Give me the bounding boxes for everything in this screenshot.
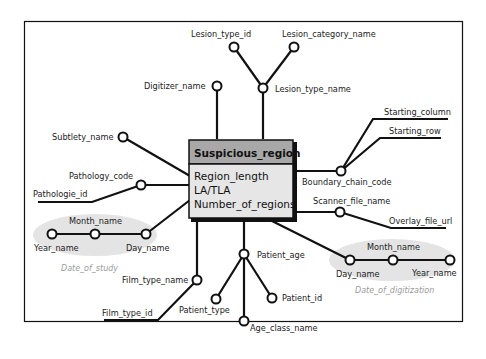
- label-starting-column: Starting_column: [384, 107, 451, 117]
- label-lesion-type-id: Lesion_type_id: [191, 29, 251, 39]
- node-lesion-type-name[interactable]: [259, 84, 268, 93]
- label-study-year: Year_name: [33, 243, 79, 253]
- node-film-type-name[interactable]: [193, 276, 202, 285]
- label-lesion-category-name: Lesion_category_name: [282, 29, 376, 39]
- node-pathology-code[interactable]: [137, 181, 146, 190]
- node-patient-type[interactable]: [212, 295, 221, 304]
- entity-suspicious-region[interactable]: Suspicious_region Region_length LA/TLA N…: [189, 140, 301, 222]
- label-study-month: Month_name: [69, 216, 122, 226]
- label-overlay-file-url: Overlay_file_url: [389, 216, 452, 226]
- entity-title: Suspicious_region: [194, 147, 301, 160]
- line-patient-id: [244, 254, 272, 298]
- node-patient-age[interactable]: [240, 250, 249, 259]
- entity-attr-la-tla: LA/TLA: [194, 184, 231, 196]
- label-pathologie-id: Pathologie_id: [33, 189, 87, 199]
- line-starting-row: [341, 138, 441, 171]
- label-patient-id: Patient_id: [282, 293, 322, 303]
- line-patient-type: [216, 254, 244, 299]
- label-age-class-name: Age_class_name: [250, 323, 318, 333]
- label-film-type-id: Film_type_id: [102, 308, 153, 318]
- label-date-of-digitization: Date_of_digitization: [355, 286, 434, 295]
- node-dig-year[interactable]: [446, 256, 455, 265]
- node-age-class-name[interactable]: [240, 317, 249, 326]
- node-dig-month[interactable]: [389, 256, 398, 265]
- entity-attr-number-of-regions: Number_of_regions: [194, 198, 295, 211]
- node-lesion-category-name[interactable]: [290, 43, 299, 52]
- er-diagram: Suspicious_region Region_length LA/TLA N…: [0, 0, 486, 359]
- node-study-day[interactable]: [142, 230, 151, 239]
- entity-attr-region-length: Region_length: [194, 170, 269, 183]
- node-digitizer-name[interactable]: [213, 82, 222, 91]
- node-boundary-chain-code[interactable]: [337, 167, 346, 176]
- label-date-of-study: Date_of_study: [61, 264, 118, 273]
- node-study-year[interactable]: [48, 230, 57, 239]
- label-patient-age: Patient_age: [257, 250, 305, 260]
- label-film-type-name: Film_type_name: [122, 275, 188, 285]
- label-lesion-type-name: Lesion_type_name: [275, 84, 351, 94]
- node-subtlety-name[interactable]: [119, 133, 128, 142]
- node-study-month[interactable]: [91, 230, 100, 239]
- line-lesion-type-id: [234, 47, 263, 88]
- line-lesion-category: [263, 47, 294, 88]
- label-starting-row: Starting_row: [389, 126, 441, 136]
- label-subtlety-name: Subtlety_name: [52, 132, 113, 142]
- label-boundary-chain-code: Boundary_chain_code: [302, 177, 392, 187]
- line-date-of-study: [146, 200, 190, 234]
- label-patient-type: Patient_type: [179, 305, 230, 315]
- label-dig-day: Day_name: [336, 269, 379, 279]
- node-scanner-file-name[interactable]: [336, 208, 345, 217]
- label-study-day: Day_name: [126, 243, 169, 253]
- label-digitizer-name: Digitizer_name: [144, 81, 206, 91]
- label-dig-year: Year_name: [411, 268, 457, 278]
- label-dig-month: Month_name: [367, 242, 420, 252]
- label-scanner-file-name: Scanner_file_name: [313, 196, 390, 206]
- node-dig-day[interactable]: [346, 256, 355, 265]
- node-patient-id[interactable]: [268, 294, 277, 303]
- label-pathology-code: Pathology_code: [69, 171, 133, 181]
- node-lesion-type-id[interactable]: [230, 43, 239, 52]
